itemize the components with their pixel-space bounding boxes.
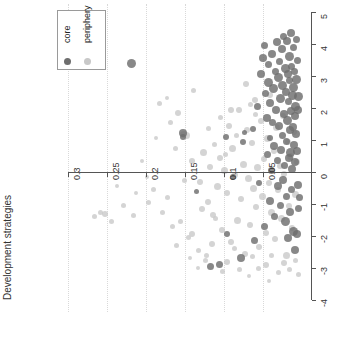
y-tick-label: -4 — [319, 299, 329, 307]
data-point-periphery — [134, 191, 138, 195]
data-point-periphery — [263, 230, 269, 236]
data-point-periphery — [146, 200, 151, 205]
data-point-core — [256, 180, 262, 186]
data-point-periphery — [238, 196, 244, 202]
data-point-periphery — [207, 164, 213, 170]
data-point-core — [277, 146, 285, 154]
data-point-periphery — [165, 96, 169, 100]
data-point-core — [271, 213, 278, 220]
y-tick — [312, 268, 316, 269]
data-point-periphery — [276, 270, 281, 275]
data-point-core — [281, 217, 290, 226]
data-point-core — [281, 162, 288, 169]
data-point-periphery — [199, 206, 205, 212]
data-point-core — [293, 230, 301, 238]
data-point-periphery — [157, 101, 162, 106]
data-point-periphery — [245, 175, 252, 182]
legend-dot-core — [64, 58, 71, 65]
data-point-core — [223, 134, 229, 140]
data-point-periphery — [259, 193, 266, 200]
data-point-core — [293, 147, 301, 155]
data-point-periphery — [287, 267, 292, 272]
data-point-periphery — [178, 219, 183, 224]
data-point-periphery — [226, 123, 232, 129]
plot-area: 0.30.250.20.150.10.05543210-1-2-3-4 — [0, 0, 351, 339]
x-tick — [263, 173, 264, 177]
data-point-core — [250, 126, 256, 132]
data-point-periphery — [175, 110, 181, 116]
data-point-periphery — [283, 252, 290, 259]
y-tick — [312, 300, 316, 301]
data-point-periphery — [174, 243, 179, 248]
data-point-periphery — [224, 190, 230, 196]
data-point-periphery — [267, 279, 271, 283]
data-point-core — [268, 50, 276, 58]
data-point-periphery — [168, 120, 173, 125]
data-point-periphery — [249, 140, 255, 146]
data-point-periphery — [115, 184, 119, 188]
data-point-periphery — [200, 149, 207, 156]
data-point-periphery — [165, 195, 170, 200]
x-tick — [185, 173, 186, 177]
scatter-plot-figure: 0.30.250.20.150.10.05543210-1-2-3-4 Deve… — [0, 0, 351, 339]
data-point-periphery — [247, 274, 251, 278]
data-point-periphery — [196, 248, 201, 253]
data-point-core — [296, 194, 303, 201]
data-point-core — [283, 138, 290, 145]
data-point-core — [265, 61, 272, 68]
y-tick — [312, 172, 316, 173]
data-point-core — [283, 193, 290, 200]
data-point-periphery — [272, 236, 278, 242]
x-tick-label: 0.25 — [111, 162, 121, 180]
data-point-periphery — [234, 133, 239, 138]
data-point-core — [207, 263, 214, 270]
data-point-periphery — [250, 254, 255, 259]
data-point-core — [295, 205, 302, 212]
data-point-periphery — [109, 219, 114, 224]
legend-dot-periphery — [84, 58, 91, 65]
data-point-core — [291, 68, 298, 75]
data-point-periphery — [228, 239, 234, 245]
data-point-periphery — [203, 258, 208, 263]
data-point-periphery — [189, 231, 195, 237]
data-point-periphery — [98, 210, 103, 215]
data-point-core — [294, 106, 302, 114]
y-tick-label: 3 — [319, 78, 329, 83]
data-point-periphery — [223, 152, 228, 157]
data-point-core — [127, 59, 136, 68]
y-tick — [312, 204, 316, 205]
data-point-core — [285, 52, 294, 61]
data-point-periphery — [182, 178, 187, 183]
data-point-periphery — [247, 222, 253, 228]
y-tick-label: 1 — [319, 142, 329, 147]
data-point-periphery — [293, 258, 298, 263]
data-point-core — [261, 42, 268, 49]
data-point-core — [283, 37, 291, 45]
data-point-periphery — [224, 259, 230, 265]
data-point-core — [287, 29, 295, 37]
data-point-periphery — [250, 185, 257, 192]
legend-label-core: core — [62, 25, 72, 43]
x-tick-label: 0.2 — [150, 167, 160, 180]
data-point-periphery — [205, 199, 211, 205]
data-point-periphery — [228, 107, 234, 113]
y-tick-label: -3 — [319, 267, 329, 275]
x-tick-label: 0.05 — [267, 162, 277, 180]
data-point-periphery — [188, 256, 192, 260]
data-point-core — [216, 261, 223, 268]
gridline-x — [107, 4, 108, 312]
x-tick — [68, 173, 69, 177]
x-tick-label: 0.15 — [189, 162, 199, 180]
data-point-periphery — [253, 204, 259, 210]
data-point-core — [254, 103, 261, 110]
data-point-periphery — [240, 161, 247, 168]
data-point-periphery — [212, 142, 217, 147]
data-point-core — [275, 122, 283, 130]
x-tick — [107, 173, 108, 177]
y-tick — [312, 44, 316, 45]
data-point-periphery — [296, 272, 301, 277]
legend-box: core periphery — [57, 10, 106, 70]
data-point-core — [224, 231, 230, 237]
data-point-periphery — [236, 107, 242, 113]
data-point-periphery — [229, 145, 236, 152]
